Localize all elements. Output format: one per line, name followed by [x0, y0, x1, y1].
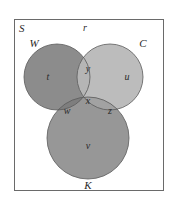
label-set-w: W	[29, 37, 39, 49]
label-region-r: r	[83, 22, 87, 33]
label-set-k: K	[83, 179, 92, 191]
label-region-v: v	[86, 140, 91, 151]
venn-diagram: S r W C K t u y x w z v	[0, 0, 174, 203]
label-set-c: C	[139, 37, 147, 49]
label-region-t: t	[47, 71, 50, 82]
label-region-x: x	[85, 95, 91, 106]
label-region-u: u	[125, 71, 130, 82]
label-region-z: z	[107, 105, 112, 116]
label-region-w: w	[64, 105, 71, 116]
label-universe-s: S	[19, 22, 25, 34]
label-region-y: y	[85, 63, 91, 74]
